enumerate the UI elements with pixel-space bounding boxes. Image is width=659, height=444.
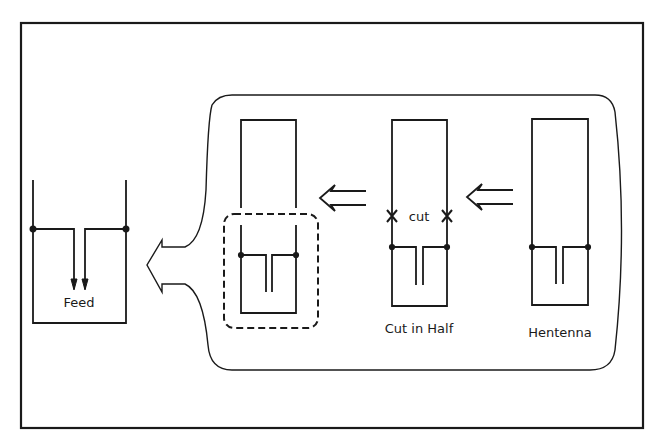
feed-arrowhead-icon <box>71 279 77 290</box>
dashed-highlight-box <box>224 214 318 328</box>
outer-frame <box>21 23 643 428</box>
hentenna-label: Hentenna <box>528 325 592 340</box>
junction-dot <box>390 245 394 249</box>
right-arm <box>563 247 588 284</box>
junction-dot <box>30 226 35 231</box>
left-arm <box>532 247 556 284</box>
feed-left-arm <box>33 229 74 289</box>
upper-rect <box>241 120 296 208</box>
junction-dot <box>294 253 298 257</box>
feed-right-arm <box>85 229 126 289</box>
right-arm <box>272 255 296 292</box>
feed-label: Feed <box>63 295 94 310</box>
left-arm <box>241 255 266 292</box>
cut-annotation: cut <box>409 209 429 224</box>
junction-dot <box>123 226 128 231</box>
left-arm <box>392 247 416 285</box>
junction-dot <box>586 245 590 249</box>
double-arrow-icon <box>467 184 513 210</box>
feed-arrowhead-icon <box>82 279 88 290</box>
junction-dot <box>239 253 243 257</box>
hentenna-rect <box>532 119 588 305</box>
double-arrow-icon <box>320 185 366 211</box>
figure-half-folded <box>224 120 318 328</box>
cut-in-half-label: Cut in Half <box>385 321 454 336</box>
right-arm <box>423 247 447 285</box>
junction-dot <box>530 245 534 249</box>
diagram-canvas: Feed cut Cut in Half Hentenna <box>0 0 659 444</box>
junction-dot <box>445 245 449 249</box>
lower-rect <box>241 225 296 313</box>
figure-hentenna <box>530 119 590 305</box>
